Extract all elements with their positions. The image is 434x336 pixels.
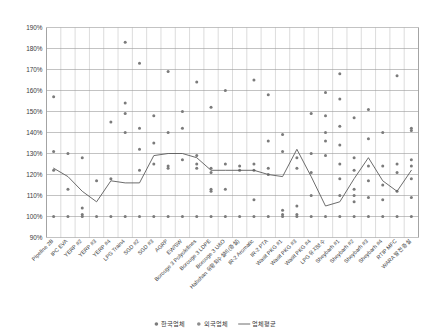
data-point — [324, 139, 327, 142]
data-point — [167, 215, 170, 218]
data-point — [138, 148, 141, 151]
legend-marker-swatch — [155, 322, 159, 326]
data-point — [252, 79, 255, 82]
data-point — [138, 62, 141, 65]
data-point — [224, 188, 227, 191]
y-axis-tick-label: 100% — [26, 213, 43, 220]
data-point — [181, 158, 184, 161]
data-point — [353, 156, 356, 159]
data-point — [210, 188, 213, 191]
data-point — [252, 215, 255, 218]
data-point — [52, 215, 55, 218]
data-point — [224, 163, 227, 166]
data-point — [324, 131, 327, 134]
data-point — [95, 215, 98, 218]
data-point — [338, 125, 341, 128]
data-point — [252, 163, 255, 166]
data-point — [381, 215, 384, 218]
data-point — [295, 167, 298, 170]
legend-item-label: 업체평균 — [252, 320, 276, 328]
data-point — [338, 163, 341, 166]
data-point — [52, 150, 55, 153]
data-point — [324, 114, 327, 117]
data-point — [410, 127, 413, 130]
data-point — [181, 127, 184, 130]
data-point — [410, 215, 413, 218]
data-point — [295, 156, 298, 159]
data-point — [167, 70, 170, 73]
data-point — [295, 213, 298, 216]
data-point — [66, 152, 69, 155]
data-point — [338, 215, 341, 218]
data-point — [353, 194, 356, 197]
data-point — [124, 102, 127, 105]
data-point — [396, 163, 399, 166]
data-point — [138, 127, 141, 130]
y-axis-tick-label: 120% — [26, 171, 43, 178]
data-point — [410, 196, 413, 199]
data-point — [396, 215, 399, 218]
y-axis-tick-label: 150% — [26, 108, 43, 115]
data-point — [210, 106, 213, 109]
data-point — [195, 81, 198, 84]
data-point — [252, 198, 255, 201]
chart-legend: 한국업체외국업체업체평균 — [155, 320, 277, 328]
data-point — [195, 154, 198, 157]
data-point — [267, 215, 270, 218]
data-point — [81, 213, 84, 216]
data-point — [324, 91, 327, 94]
data-point — [267, 139, 270, 142]
data-point — [167, 131, 170, 134]
data-point — [224, 89, 227, 92]
data-point — [267, 93, 270, 96]
data-point — [210, 171, 213, 174]
data-point — [396, 171, 399, 174]
data-point — [381, 165, 384, 168]
data-point — [95, 179, 98, 182]
y-axis-tick-label: 130% — [26, 150, 43, 157]
data-point — [267, 167, 270, 170]
y-axis-tick-label: 170% — [26, 66, 43, 73]
legend-item-label: 외국업체 — [204, 320, 228, 328]
data-point — [410, 165, 413, 168]
y-axis-tick-label: 140% — [26, 129, 43, 136]
data-point — [138, 169, 141, 172]
data-point — [353, 169, 356, 172]
data-point — [310, 215, 313, 218]
data-point — [124, 215, 127, 218]
data-point — [310, 112, 313, 115]
data-point — [353, 188, 356, 191]
data-point — [338, 177, 341, 180]
data-point — [281, 209, 284, 212]
data-point — [281, 133, 284, 136]
data-point — [66, 188, 69, 191]
data-point — [367, 165, 370, 168]
data-point — [124, 131, 127, 134]
data-point — [338, 144, 341, 147]
data-point — [367, 108, 370, 111]
data-point — [195, 215, 198, 218]
data-point — [195, 167, 198, 170]
y-axis-tick-label: 190% — [26, 24, 43, 31]
data-point — [310, 194, 313, 197]
chart-canvas: 90%100%110%120%130%140%150%160%170%180%1… — [0, 0, 434, 336]
data-point — [238, 165, 241, 168]
data-point — [66, 215, 69, 218]
data-point — [109, 121, 112, 124]
data-point — [281, 150, 284, 153]
scatter-chart: 90%100%110%120%130%140%150%160%170%180%1… — [0, 0, 434, 336]
data-point — [138, 215, 141, 218]
data-point — [124, 41, 127, 44]
data-point — [224, 215, 227, 218]
data-point — [295, 205, 298, 208]
data-point — [367, 179, 370, 182]
data-point — [410, 158, 413, 161]
data-point — [324, 215, 327, 218]
data-point — [238, 215, 241, 218]
data-point — [81, 207, 84, 210]
data-point — [124, 112, 127, 115]
data-point — [381, 184, 384, 187]
data-point — [109, 177, 112, 180]
data-point — [152, 114, 155, 117]
data-point — [381, 131, 384, 134]
